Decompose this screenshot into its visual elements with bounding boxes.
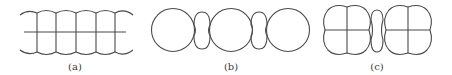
figure-b-circle bbox=[152, 9, 195, 52]
figure-a-label: (a) bbox=[68, 61, 82, 72]
figure-c-label: (c) bbox=[370, 61, 383, 72]
figure-c-drawing bbox=[324, 6, 432, 55]
figure-b-bridge bbox=[194, 12, 210, 49]
figure-b-circle bbox=[210, 9, 253, 52]
figure-b-bridge bbox=[251, 12, 267, 49]
figure-a-drawing bbox=[20, 11, 133, 55]
figure-c-bridge bbox=[371, 10, 383, 52]
figure-b-circle bbox=[267, 9, 310, 52]
figure-b-label: (b) bbox=[224, 61, 238, 72]
figure-b-drawing bbox=[152, 9, 310, 52]
